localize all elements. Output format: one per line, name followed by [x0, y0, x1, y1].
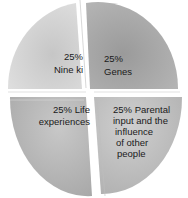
label-parental-input: 25% Parental input and the influence of …: [113, 104, 188, 159]
label-genes: 25% Genes: [104, 53, 164, 77]
label-line: of other: [113, 137, 188, 148]
label-nine-ki: 25% Nine ki: [40, 51, 83, 75]
label-line: experiences: [28, 116, 90, 127]
label-life-experiences: 25% Life experiences: [28, 104, 90, 127]
label-line: Genes: [104, 66, 164, 77]
label-line: 25%: [104, 53, 164, 64]
label-line: 25%: [40, 51, 83, 62]
label-line: people: [113, 148, 188, 159]
label-line: 25% Life: [28, 104, 90, 115]
label-line: 25% Parental: [113, 104, 188, 115]
slice-nine-ki: [8, 3, 82, 89]
label-line: influence: [113, 126, 188, 137]
label-line: Nine ki: [40, 64, 83, 75]
pie-chart: [0, 0, 188, 198]
label-line: input and the: [113, 115, 188, 126]
